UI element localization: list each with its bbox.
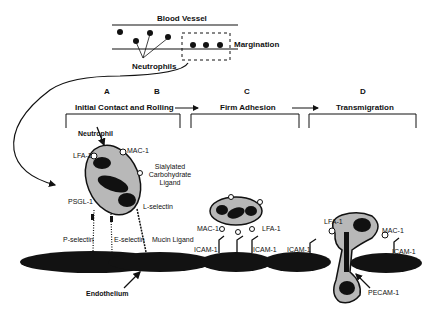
l-selectin-label: L-selectin xyxy=(143,203,173,210)
c-mac1-label: MAC-1 xyxy=(197,225,219,232)
sialylated-label-1: Sialylated xyxy=(144,163,196,170)
psgl1-label: PSGL-1 xyxy=(68,198,93,205)
stage-title-transmigration: Transmigration xyxy=(336,104,394,112)
neutrophil-label: Neutrophil xyxy=(78,130,113,137)
stage-letter-b: B xyxy=(154,88,160,96)
c-icam1-label-b: ICAM-1 xyxy=(253,246,277,253)
e-selectin-label: E-selectin xyxy=(114,236,145,243)
lfa1-label: LFA-1 xyxy=(73,152,92,159)
endothelium xyxy=(20,251,422,273)
d-lfa1-label: LFA-1 xyxy=(324,218,343,225)
stage-title-initial-contact: Initial Contact and Rolling xyxy=(75,104,174,112)
endothelium-label: Endothelium xyxy=(86,290,128,297)
c-lfa1-label: LFA-1 xyxy=(262,225,281,232)
mucin-ligand-label: Mucin Ligand xyxy=(152,236,194,243)
c-icam1-label-a: ICAM-1 xyxy=(194,246,218,253)
neutrophils-label: Neutrophils xyxy=(132,63,176,71)
blood-vessel xyxy=(112,25,238,60)
d-icam1-label: ICAM-1 xyxy=(392,248,416,255)
neutrophil-rolling xyxy=(75,127,150,252)
stage-letter-c: C xyxy=(244,88,250,96)
p-selectin-label: P-selectin xyxy=(63,236,94,243)
stage-title-firm-adhesion: Firm Adhesion xyxy=(220,104,276,112)
sialylated-label-3: Ligand xyxy=(144,179,196,186)
d-mac1-label: MAC-1 xyxy=(382,227,404,234)
leukocyte-adhesion-diagram xyxy=(0,0,436,315)
mac1-label: MAC-1 xyxy=(127,147,149,154)
sialylated-label-2: Carbohydrate xyxy=(144,171,196,178)
stage-letter-d: D xyxy=(360,88,366,96)
margination-label: Margination xyxy=(234,41,279,49)
c-icam1-label-c: ICAM-1 xyxy=(287,246,311,253)
d-pecam1-label: PECAM-1 xyxy=(368,289,399,296)
blood-vessel-title: Blood Vessel xyxy=(157,15,207,23)
stage-letter-a: A xyxy=(104,88,110,96)
